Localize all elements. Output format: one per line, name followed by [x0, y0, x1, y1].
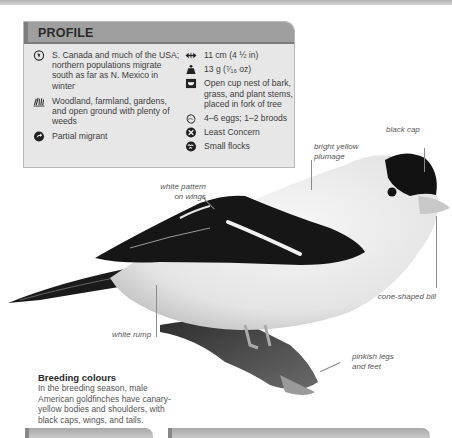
breeding-colours-section: Breeding colours In the breeding season,…: [38, 372, 178, 425]
callout-bright-yellow: bright yellow plumage: [314, 142, 384, 161]
white-rump-leader: [156, 285, 157, 337]
callout-black-cap: black cap: [386, 125, 420, 135]
callout-white-pattern: white pattern on wings: [150, 182, 206, 201]
profile-length-text: 11 cm (4 ½ in): [204, 50, 258, 60]
profile-range-text: S. Canada and much of the USA; northern …: [52, 50, 179, 91]
profile-range: S. Canada and much of the USA; northern …: [32, 50, 182, 91]
profile-weight: 13 g (⁷⁄₁₆ oz): [184, 64, 295, 74]
bright-yellow-leader: [311, 160, 312, 190]
top-rule: [0, 0, 452, 5]
callout-white-rump: white rump: [112, 330, 151, 340]
profile-habitat-text: Woodland, farmland, gardens, and open gr…: [52, 96, 170, 126]
profile-habitat: Woodland, farmland, gardens, and open gr…: [32, 96, 182, 127]
breeding-text: In the breeding season, male American go…: [38, 383, 178, 425]
callout-cone-bill: cone-shaped bill: [376, 292, 436, 302]
profile-eggs: 4–6 eggs; 1–2 broods: [184, 113, 295, 123]
globe-range-icon: [33, 50, 45, 61]
grass-habitat-icon: [33, 96, 45, 107]
bottom-panel-left: [25, 428, 153, 438]
profile-length: 11 cm (4 ½ in): [184, 50, 295, 60]
bottom-panel-right: [168, 428, 430, 438]
profile-nest: Open cup nest of bark, grass, and plant …: [184, 78, 295, 109]
nest-icon: [185, 78, 197, 89]
black-cap-leader: [424, 148, 425, 172]
profile-title: PROFILE: [38, 26, 94, 40]
profile-nest-text: Open cup nest of bark, grass, and plant …: [204, 78, 293, 108]
breeding-title: Breeding colours: [38, 372, 178, 383]
callout-pinkish-legs: pinkish legs and feet: [352, 352, 402, 371]
profile-header: PROFILE: [24, 22, 294, 44]
profile-eggs-text: 4–6 eggs; 1–2 broods: [204, 113, 287, 123]
weight-icon: [185, 64, 197, 75]
egg-icon: [185, 113, 197, 124]
length-arrows-icon: [185, 50, 197, 61]
cone-bill-leader: [436, 216, 437, 288]
profile-weight-text: 13 g (⁷⁄₁₆ oz): [204, 64, 251, 74]
